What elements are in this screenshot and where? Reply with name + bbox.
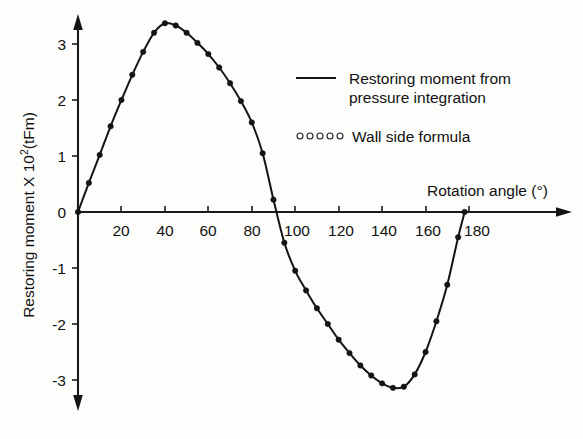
x-ticklabel-60: 60 <box>199 222 217 239</box>
y-axis-title-unit: (tFm) <box>20 112 37 149</box>
data-point <box>260 151 265 156</box>
y-ticklabel-minus3: -3 <box>52 372 66 389</box>
y-ticklabel-2: 2 <box>57 92 66 109</box>
y-axis-title: Restoring moment X 102(tFm) <box>18 112 37 318</box>
data-point <box>216 65 221 70</box>
x-ticklabel-20: 20 <box>112 222 130 239</box>
data-point <box>336 337 341 342</box>
data-point <box>325 321 330 326</box>
legend-label-wall-side-formula: Wall side formula <box>352 128 471 145</box>
data-point <box>184 30 189 35</box>
data-point <box>140 49 145 54</box>
data-point <box>303 288 308 293</box>
data-point <box>293 268 298 273</box>
data-point <box>195 40 200 45</box>
data-point <box>412 372 417 377</box>
data-point <box>173 23 178 28</box>
data-point <box>249 120 254 125</box>
data-point <box>97 152 102 157</box>
data-point <box>206 51 211 56</box>
data-point <box>162 21 167 26</box>
x-axis-title: Rotation angle (°) <box>427 182 548 199</box>
data-point <box>390 385 395 390</box>
y-axis-title-main: Restoring moment X 10 <box>20 155 37 318</box>
data-point <box>314 306 319 311</box>
x-ticklabel-80: 80 <box>243 222 261 239</box>
x-ticklabel-140: 140 <box>371 222 397 239</box>
y-ticklabel-minus2: -2 <box>52 316 66 333</box>
legend-label-restoring-moment-line2: pressure integration <box>349 89 486 106</box>
y-ticklabel-minus1: -1 <box>52 260 66 277</box>
data-point <box>347 350 352 355</box>
restoring-moment-chart: 3 2 1 0 -1 -2 -3 Restoring moment X 102(… <box>0 0 583 439</box>
data-point <box>151 30 156 35</box>
y-ticklabel-1: 1 <box>57 148 66 165</box>
x-ticklabel-40: 40 <box>156 222 174 239</box>
data-point <box>358 363 363 368</box>
legend-label-restoring-moment-line1: Restoring moment from <box>349 70 511 87</box>
x-ticklabel-120: 120 <box>328 222 354 239</box>
data-point <box>75 209 80 214</box>
data-point <box>445 282 450 287</box>
chart-background <box>0 0 583 439</box>
data-point <box>423 349 428 354</box>
data-point <box>455 235 460 240</box>
data-point <box>238 98 243 103</box>
x-ticklabel-160: 160 <box>415 222 441 239</box>
data-point <box>271 197 276 202</box>
svg-text:Restoring moment X 102(tFm): Restoring moment X 102(tFm) <box>18 112 37 318</box>
x-ticklabel-100: 100 <box>284 222 310 239</box>
y-ticklabel-0: 0 <box>57 204 66 221</box>
data-point <box>86 180 91 185</box>
data-point <box>401 384 406 389</box>
data-point <box>227 81 232 86</box>
x-ticklabel-180: 180 <box>464 222 490 239</box>
data-point <box>130 72 135 77</box>
data-point <box>462 209 467 214</box>
data-point <box>108 124 113 129</box>
data-point <box>119 97 124 102</box>
y-ticklabel-3: 3 <box>57 36 66 53</box>
data-point <box>434 319 439 324</box>
data-point <box>282 240 287 245</box>
data-point <box>379 381 384 386</box>
data-point <box>369 373 374 378</box>
